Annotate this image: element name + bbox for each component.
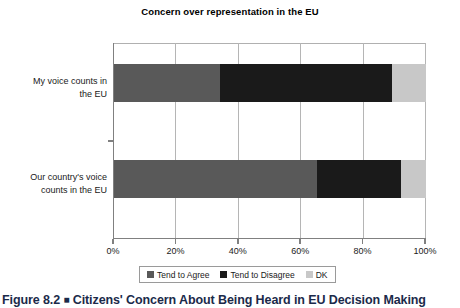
bar-segment — [114, 64, 220, 102]
legend-item[interactable]: Tend to Disagree — [220, 270, 294, 280]
legend-label: Tend to Agree — [157, 270, 209, 280]
x-axis-tick — [424, 239, 426, 244]
legend-item[interactable]: Tend to Agree — [147, 270, 209, 280]
category-label-line: counts in the EU — [3, 184, 107, 197]
figure-caption-text: Citizens' Concern About Being Heard in E… — [73, 293, 426, 307]
bar-segment — [220, 64, 392, 102]
category-label-line: Our country's voice — [3, 171, 107, 184]
legend-label: Tend to Disagree — [230, 270, 294, 280]
x-axis-tick-label: 80% — [341, 246, 385, 256]
figure-caption-number: Figure 8.2 — [2, 293, 60, 307]
x-axis-tick — [237, 239, 239, 244]
legend-label: DK — [316, 270, 328, 280]
plot-frame-top — [114, 43, 426, 44]
x-axis-tick-label: 100% — [403, 246, 447, 256]
figure-caption: Figure 8.2 ■ Citizens' Concern About Bei… — [2, 293, 460, 307]
bar-segment — [401, 160, 426, 198]
x-axis-tick — [299, 239, 301, 244]
x-axis-tick-label: 60% — [278, 246, 322, 256]
legend-item[interactable]: DK — [306, 270, 328, 280]
category-label-our-country-voice: Our country's voice counts in the EU — [3, 171, 107, 196]
bar-segment — [392, 64, 426, 102]
bar-segment — [317, 160, 401, 198]
x-axis-tick — [362, 239, 364, 244]
chart-legend: Tend to AgreeTend to DisagreeDK — [139, 266, 336, 283]
bar-row — [114, 160, 426, 198]
legend-swatch-icon — [220, 271, 227, 278]
plot-area — [113, 43, 426, 239]
bar-row — [114, 64, 426, 102]
legend-swatch-icon — [306, 271, 313, 278]
x-axis-tick-label: 40% — [216, 246, 260, 256]
category-label-my-voice: My voice counts in the EU — [3, 75, 107, 100]
x-axis-tick-label: 0% — [91, 246, 135, 256]
legend-swatch-icon — [147, 271, 154, 278]
category-label-line: My voice counts in — [3, 75, 107, 88]
figure-caption-square: ■ — [63, 294, 69, 305]
x-axis-tick — [175, 239, 177, 244]
x-axis-tick-label: 20% — [153, 246, 197, 256]
bar-segment — [114, 160, 317, 198]
chart-title: Concern over representation in the EU — [0, 6, 460, 17]
x-axis-tick — [112, 239, 114, 244]
category-label-line: the EU — [3, 88, 107, 101]
